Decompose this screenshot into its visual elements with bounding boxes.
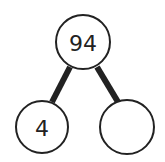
bond-line-right <box>97 67 118 102</box>
part-left-label: 4 <box>35 116 49 141</box>
part-right-circle <box>100 100 154 154</box>
bond-line-left <box>52 67 70 102</box>
number-bond-diagram: 94 4 <box>0 0 165 162</box>
whole-label: 94 <box>69 31 97 56</box>
